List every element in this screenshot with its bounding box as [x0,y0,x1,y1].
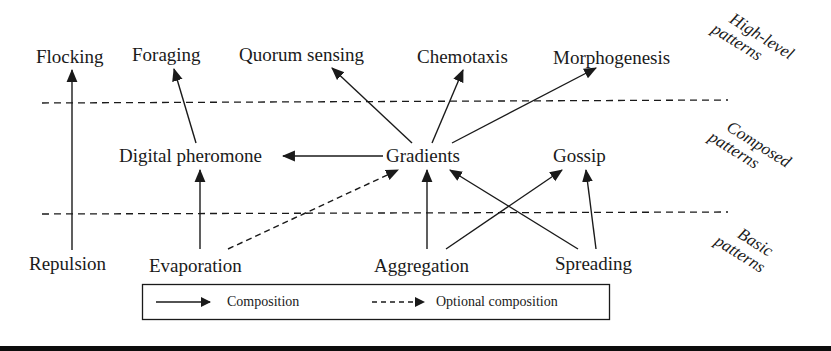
tier-separator-top [42,100,728,103]
node-quorum-sensing: Quorum sensing [239,45,364,65]
node-foraging: Foraging [132,45,201,65]
node-aggregation: Aggregation [374,256,469,276]
node-flocking: Flocking [36,47,104,67]
tier-separator-bottom [42,212,728,214]
edge-gradients-chemotaxis [432,70,463,143]
edge-aggregation-gossip [446,170,562,249]
node-evaporation: Evaporation [149,256,242,276]
node-morphogenesis: Morphogenesis [553,48,670,68]
node-digital-pheromone: Digital pheromone [119,146,262,166]
node-chemotaxis: Chemotaxis [417,47,508,67]
edge-gradients-quorum-sensing [332,68,412,143]
node-spreading: Spreading [555,254,632,274]
edge-spreading-gossip [586,170,596,249]
node-gradients: Gradients [386,146,460,166]
node-gossip: Gossip [553,146,606,166]
bottom-border-bar [0,346,831,351]
edge-evaporation-gradients-optional [228,170,398,249]
diagram-edges-layer [0,0,831,351]
node-repulsion: Repulsion [29,254,106,274]
edge-gradients-morphogenesis [452,68,596,143]
legend-composition-label: Composition [227,294,299,310]
pattern-hierarchy-diagram: Flocking Foraging Quorum sensing Chemota… [0,0,831,351]
legend-optional-composition-label: Optional composition [436,294,558,310]
edge-digital-pheromone-foraging [174,69,196,143]
edge-spreading-gradients [450,170,578,249]
